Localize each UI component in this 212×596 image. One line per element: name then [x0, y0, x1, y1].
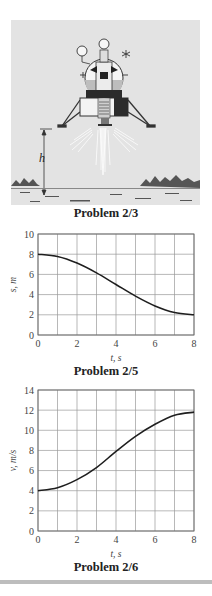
figure-caption: Problem 2/3: [0, 206, 212, 221]
x-tick-label: 2: [75, 338, 80, 349]
x-tick-label: 8: [192, 534, 197, 545]
x-axis-label: t, s: [110, 353, 121, 363]
y-tick-label: 10: [24, 425, 34, 436]
y-tick-label: 12: [24, 405, 34, 416]
x-tick-label: 0: [36, 534, 41, 545]
x-tick-label: 2: [75, 534, 80, 545]
y-tick-label: 6: [29, 465, 34, 476]
y-tick-label: 0: [29, 526, 34, 537]
y-tick-label: 6: [29, 269, 34, 280]
chart-s-vs-t: 024681002468t, ss, m: [0, 222, 212, 364]
figure-caption: Problem 2/6: [0, 560, 212, 575]
figure-caption: Problem 2/5: [0, 364, 212, 379]
x-tick-label: 4: [114, 534, 119, 545]
grid: [38, 390, 194, 531]
y-tick-label: 8: [29, 445, 34, 456]
y-tick-label: 14: [24, 385, 34, 396]
x-tick-label: 6: [153, 534, 158, 545]
y-tick-label: 10: [24, 229, 34, 240]
chart-v-vs-t: 0246810121402468t, sv, m/s: [0, 380, 212, 560]
section-divider: [0, 580, 212, 584]
y-tick-label: 2: [29, 505, 34, 516]
height-label: h: [39, 151, 45, 165]
x-tick-label: 0: [36, 338, 41, 349]
x-axis-label: t, s: [110, 549, 121, 559]
x-tick-label: 4: [114, 338, 119, 349]
y-tick-label: 2: [29, 309, 34, 320]
y-axis-label: s, m: [8, 277, 18, 292]
y-tick-label: 8: [29, 249, 34, 260]
lunar-lander-illustration: h: [0, 0, 212, 206]
y-tick-label: 4: [29, 485, 34, 496]
x-tick-label: 8: [192, 338, 197, 349]
y-tick-label: 4: [29, 289, 34, 300]
x-tick-label: 6: [153, 338, 158, 349]
y-axis-label: v, m/s: [8, 449, 18, 471]
y-tick-label: 0: [29, 330, 34, 341]
